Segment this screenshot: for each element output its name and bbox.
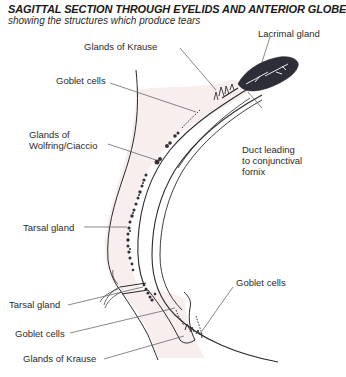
label-glands-of-wolfring-2: Wolfring/Ciaccio (29, 140, 97, 151)
label-goblet-cells-upper: Goblet cells (56, 75, 106, 86)
label-tarsal-gland-upper: Tarsal gland (23, 222, 74, 233)
label-duct-1: Duct leading (242, 144, 295, 155)
label-glands-of-krause-lower: Glands of Krause (23, 353, 96, 364)
label-duct-3: fornix (242, 166, 265, 177)
label-tarsal-gland-lower: Tarsal gland (9, 299, 60, 310)
label-duct-2: to conjunctival (242, 155, 302, 166)
label-goblet-cells-lower: Goblet cells (15, 328, 65, 339)
lower-lid-tissue (118, 288, 205, 358)
lacrimal-gland (238, 57, 298, 91)
label-glands-of-krause-upper: Glands of Krause (84, 41, 157, 52)
label-glands-of-wolfring-1: Glands of (29, 129, 70, 140)
label-goblet-cells-right: Goblet cells (236, 277, 286, 288)
label-lacrimal-gland: Lacrimal gland (258, 28, 320, 39)
